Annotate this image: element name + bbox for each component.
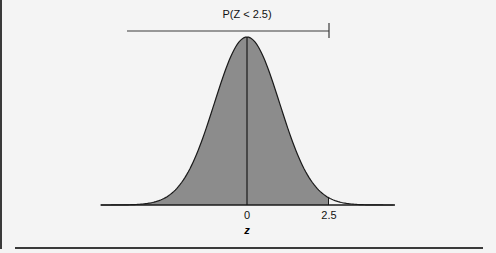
- tick-label-0: 0: [244, 209, 250, 221]
- tick-label-2-5: 2.5: [321, 209, 336, 221]
- x-axis-label: z: [244, 224, 250, 236]
- chart-title: P(Z < 2.5): [222, 8, 271, 20]
- shaded-area: [100, 37, 328, 205]
